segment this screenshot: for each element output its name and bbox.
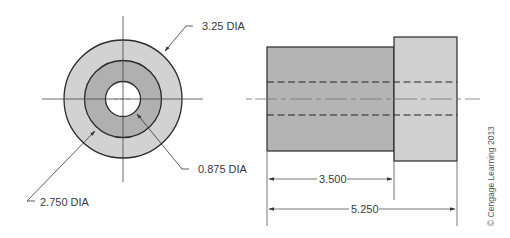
drawing-canvas: 3.25 DIA 0.875 DIA 2.750 DIA 3.500 5.250…	[0, 0, 510, 238]
inner-dia-label: 0.875 DIA	[198, 163, 248, 175]
dim-total-label: 5.250	[351, 203, 379, 215]
middle-leader	[27, 131, 95, 201]
outer-dia-label: 3.25 DIA	[202, 20, 245, 32]
outer-leader	[165, 26, 193, 51]
middle-dia-label: 2.750 DIA	[40, 196, 90, 208]
copyright-text: © Cengage Learning 2013	[486, 126, 496, 226]
side-view: 3.500 5.250	[246, 37, 480, 226]
front-view: 3.25 DIA 0.875 DIA 2.750 DIA	[27, 16, 248, 208]
dim-short-label: 3.500	[319, 173, 347, 185]
